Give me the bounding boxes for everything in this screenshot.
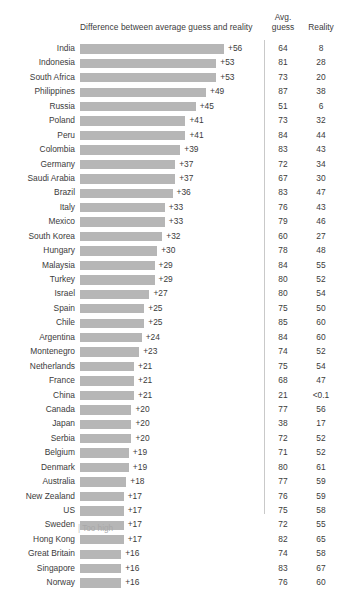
row-country-label: Belgium bbox=[0, 447, 75, 457]
row-difference-value: +19 bbox=[133, 462, 147, 472]
row-country-label: Turkey bbox=[0, 274, 75, 284]
row-country-label: France bbox=[0, 375, 75, 385]
row-bar bbox=[80, 304, 144, 313]
row-bar-track bbox=[80, 304, 144, 313]
table-row: Netherlands+217554 bbox=[0, 360, 349, 374]
row-reality-value: 46 bbox=[300, 216, 342, 226]
row-difference-value: +16 bbox=[125, 577, 139, 587]
table-row: Japan+203817 bbox=[0, 417, 349, 431]
table-row: Belgium+197152 bbox=[0, 446, 349, 460]
row-country-label: Philippines bbox=[0, 86, 75, 96]
row-avg-guess-value: 38 bbox=[268, 418, 298, 428]
row-reality-value: 52 bbox=[300, 447, 342, 457]
row-difference-value: +16 bbox=[125, 548, 139, 558]
row-reality-value: 47 bbox=[300, 187, 342, 197]
row-avg-guess-value: 80 bbox=[268, 462, 298, 472]
table-row: Hong Kong+178265 bbox=[0, 533, 349, 547]
row-reality-value: 8 bbox=[300, 43, 342, 53]
row-difference-value: +20 bbox=[135, 418, 149, 428]
row-country-label: Malaysia bbox=[0, 260, 75, 270]
row-avg-guess-value: 75 bbox=[268, 361, 298, 371]
row-country-label: Germany bbox=[0, 159, 75, 169]
row-avg-guess-value: 72 bbox=[268, 433, 298, 443]
row-avg-guess-value: 77 bbox=[268, 404, 298, 414]
row-country-label: New Zealand bbox=[0, 491, 75, 501]
row-country-label: Montenegro bbox=[0, 346, 75, 356]
row-bar-track bbox=[80, 477, 126, 486]
table-row: US+177558 bbox=[0, 504, 349, 518]
row-bar-track bbox=[80, 275, 155, 284]
row-avg-guess-value: 68 bbox=[268, 375, 298, 385]
row-avg-guess-value: 79 bbox=[268, 216, 298, 226]
row-bar-track bbox=[80, 203, 165, 212]
row-reality-value: 52 bbox=[300, 274, 342, 284]
row-reality-value: 54 bbox=[300, 361, 342, 371]
table-row: Montenegro+237452 bbox=[0, 345, 349, 359]
row-bar-track bbox=[80, 347, 139, 356]
row-bar bbox=[80, 145, 180, 154]
row-bar-track bbox=[80, 362, 134, 371]
bar-column-title: Difference between average guess and rea… bbox=[80, 22, 252, 32]
row-bar bbox=[80, 160, 175, 169]
row-bar-track bbox=[80, 564, 121, 573]
row-bar bbox=[80, 319, 144, 328]
row-reality-value: 56 bbox=[300, 404, 342, 414]
row-reality-value: 38 bbox=[300, 86, 342, 96]
row-reality-value: 59 bbox=[300, 476, 342, 486]
row-bar bbox=[80, 246, 157, 255]
row-avg-guess-value: 75 bbox=[268, 505, 298, 515]
chart-header: Difference between average guess and rea… bbox=[0, 12, 349, 40]
row-bar bbox=[80, 131, 185, 140]
row-country-label: Hong Kong bbox=[0, 534, 75, 544]
row-bar bbox=[80, 73, 216, 82]
row-country-label: South Africa bbox=[0, 72, 75, 82]
row-country-label: Hungary bbox=[0, 245, 75, 255]
row-reality-value: 44 bbox=[300, 130, 342, 140]
row-bar bbox=[80, 232, 162, 241]
table-row: Hungary+307848 bbox=[0, 244, 349, 258]
row-country-label: Netherlands bbox=[0, 361, 75, 371]
row-country-label: Israel bbox=[0, 288, 75, 298]
column-header-avg-guess: Avg. guess bbox=[268, 12, 298, 32]
row-bar-track bbox=[80, 376, 134, 385]
row-difference-value: +56 bbox=[228, 43, 242, 53]
row-bar-track bbox=[80, 131, 185, 140]
row-bar-track bbox=[80, 145, 180, 154]
table-row: Israel+278054 bbox=[0, 287, 349, 301]
row-bar bbox=[80, 463, 129, 472]
table-row: India+56648 bbox=[0, 42, 349, 56]
table-row: Brazil+368347 bbox=[0, 186, 349, 200]
table-row: Spain+257550 bbox=[0, 302, 349, 316]
table-row: South Korea+326027 bbox=[0, 230, 349, 244]
table-row: Poland+417332 bbox=[0, 114, 349, 128]
table-row: South Africa+537320 bbox=[0, 71, 349, 85]
row-bar-track bbox=[80, 116, 185, 125]
row-reality-value: 52 bbox=[300, 346, 342, 356]
row-avg-guess-value: 60 bbox=[268, 231, 298, 241]
row-reality-value: 48 bbox=[300, 245, 342, 255]
column-header-reality: Reality bbox=[300, 22, 342, 32]
row-bar-track bbox=[80, 506, 124, 515]
row-bar-track bbox=[80, 246, 157, 255]
row-bar bbox=[80, 347, 139, 356]
row-bar bbox=[80, 88, 206, 97]
row-bar bbox=[80, 290, 149, 299]
row-bar-track bbox=[80, 420, 131, 429]
row-avg-guess-value: 83 bbox=[268, 187, 298, 197]
row-difference-value: +39 bbox=[184, 144, 198, 154]
row-avg-guess-value: 84 bbox=[268, 130, 298, 140]
row-avg-guess-value: 80 bbox=[268, 288, 298, 298]
row-country-label: Serbia bbox=[0, 433, 75, 443]
row-reality-value: 50 bbox=[300, 303, 342, 313]
row-reality-value: 65 bbox=[300, 534, 342, 544]
row-bar bbox=[80, 391, 134, 400]
row-difference-value: +17 bbox=[128, 519, 142, 529]
row-bar bbox=[80, 59, 216, 68]
row-reality-value: 27 bbox=[300, 231, 342, 241]
row-difference-value: +18 bbox=[130, 476, 144, 486]
row-country-label: South Korea bbox=[0, 231, 75, 241]
row-avg-guess-value: 75 bbox=[268, 303, 298, 313]
row-reality-value: 58 bbox=[300, 505, 342, 515]
table-row: Serbia+207252 bbox=[0, 432, 349, 446]
row-bar bbox=[80, 261, 155, 270]
